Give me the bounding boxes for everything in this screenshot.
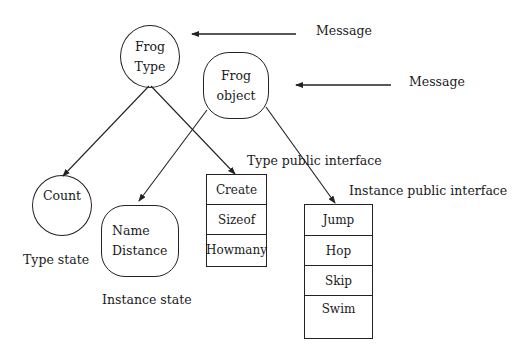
method-sizeof: Sizeof xyxy=(207,205,266,235)
instance-var-distance: Distance xyxy=(112,241,167,261)
frog-type-node: Frog Type xyxy=(120,25,180,88)
instance-var-name: Name xyxy=(112,221,150,241)
instance-state-node: Name Distance xyxy=(101,205,179,277)
type-public-interface-label: Type public interface xyxy=(247,153,382,168)
type-public-interface-table: Create Sizeof Howmany xyxy=(206,174,267,267)
frog-type-line1: Frog xyxy=(135,37,165,57)
message-label-2: Message xyxy=(409,74,465,89)
method-skip: Skip xyxy=(305,266,372,296)
frog-object-line1: Frog xyxy=(221,66,251,86)
instance-state-label: Instance state xyxy=(102,292,192,307)
instance-public-interface-table: Jump Hop Skip Swim xyxy=(304,204,373,339)
count-label: Count xyxy=(43,186,81,206)
frog-object-line2: object xyxy=(217,86,256,106)
frog-type-line2: Type xyxy=(135,57,166,77)
method-hop: Hop xyxy=(305,236,372,266)
frog-object-node: Frog object xyxy=(203,52,269,119)
method-swim: Swim xyxy=(305,296,372,337)
method-create: Create xyxy=(207,175,266,205)
instance-public-interface-label: Instance public interface xyxy=(349,183,507,198)
method-jump: Jump xyxy=(305,205,372,236)
method-howmany: Howmany xyxy=(207,235,266,265)
count-node: Count xyxy=(32,175,92,236)
type-state-label: Type state xyxy=(23,252,89,267)
message-label-1: Message xyxy=(316,23,372,38)
